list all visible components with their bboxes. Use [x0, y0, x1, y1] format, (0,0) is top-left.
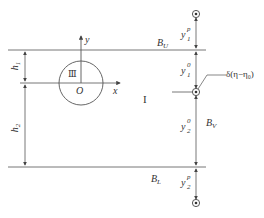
region-i-label: I [143, 94, 147, 105]
x-axis-label: x [113, 86, 117, 96]
y20-base: y [181, 122, 185, 132]
h1-base: h [9, 65, 20, 70]
diagram-canvas [0, 0, 264, 218]
y1p-base: y [181, 30, 185, 40]
lower-boundary-label: BL [151, 174, 161, 186]
bottom-point-icon [192, 199, 199, 206]
bl-sub: L [157, 178, 161, 186]
top-point-icon [192, 10, 199, 17]
y2p-sub: 2 [187, 184, 191, 191]
upper-boundary-label: BU [157, 38, 168, 50]
y2p-sup: p [187, 174, 191, 181]
h2-base: h [9, 127, 20, 132]
origin-label: O [76, 86, 83, 96]
region-iii-label: Ⅲ [68, 70, 77, 79]
h2-label: h2 [10, 124, 22, 133]
source-delta-label: δ(η−η₀) [226, 70, 254, 79]
y10-base: y [181, 66, 185, 76]
vertical-boundary-label: BV [206, 118, 216, 130]
y1p-sub: 1 [187, 36, 191, 43]
y1p-label: y p 1 [181, 28, 195, 44]
y1p-sup: p [187, 26, 191, 33]
y20-label: y 0 2 [181, 120, 195, 136]
y2p-label: y p 2 [181, 176, 195, 192]
y-axis-label: y [85, 35, 89, 45]
y10-sup: 0 [187, 62, 191, 69]
y20-sup: 0 [187, 118, 191, 125]
y20-sub: 2 [187, 128, 191, 135]
h1-label: h1 [10, 62, 22, 71]
h1-sub: 1 [14, 62, 22, 66]
bv-sub: V [212, 122, 216, 130]
source-leader-line [198, 75, 226, 89]
source-point-icon [192, 88, 199, 95]
y2p-base: y [181, 178, 185, 188]
y10-sub: 1 [187, 72, 191, 79]
bu-sub: U [163, 42, 168, 50]
h2-sub: 2 [14, 124, 22, 128]
y10-label: y 0 1 [181, 64, 195, 80]
